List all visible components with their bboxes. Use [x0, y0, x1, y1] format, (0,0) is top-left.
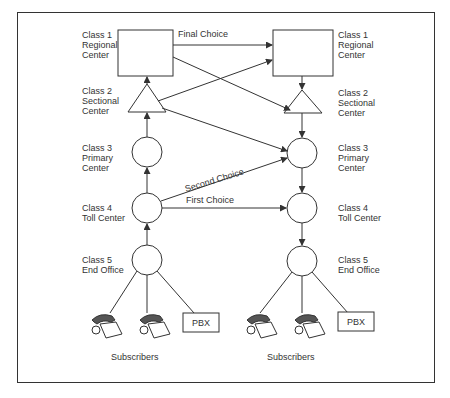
left-subscribers-label: Subscribers: [111, 352, 159, 362]
right-class3-label: Class 3 Primary Center: [338, 143, 369, 173]
pbx-label: PBX: [347, 317, 365, 327]
right-regional-center-box: [273, 30, 333, 76]
left-class5-label: Class 5 End Office: [82, 255, 124, 275]
right-class1-label: Class 1 Regional Center: [338, 30, 374, 60]
first-choice-label: First Choice: [186, 195, 234, 205]
left-class4-label: Class 4 Toll Center: [82, 203, 125, 223]
second-choice-label: Second Choice: [184, 167, 245, 194]
right-class4-label: Class 4 Toll Center: [338, 203, 381, 223]
left-class3-label: Class 3 Primary Center: [82, 143, 113, 173]
left-class1-label: Class 1 Regional Center: [82, 30, 118, 60]
left-sectional-triangle: [128, 84, 166, 112]
left-class2-label: Class 2 Sectional Center: [82, 86, 119, 116]
pbx-label: PBX: [192, 318, 210, 328]
left-regional-center-box: [118, 30, 173, 76]
hierarchy-diagram: Final Choice First Choice Second Choice …: [0, 0, 450, 398]
right-subscribers-label: Subscribers: [267, 352, 315, 362]
right-class2-label: Class 2 Sectional Center: [338, 88, 375, 118]
right-class5-label: Class 5 End Office: [338, 255, 380, 275]
final-choice-label: Final Choice: [178, 29, 228, 39]
